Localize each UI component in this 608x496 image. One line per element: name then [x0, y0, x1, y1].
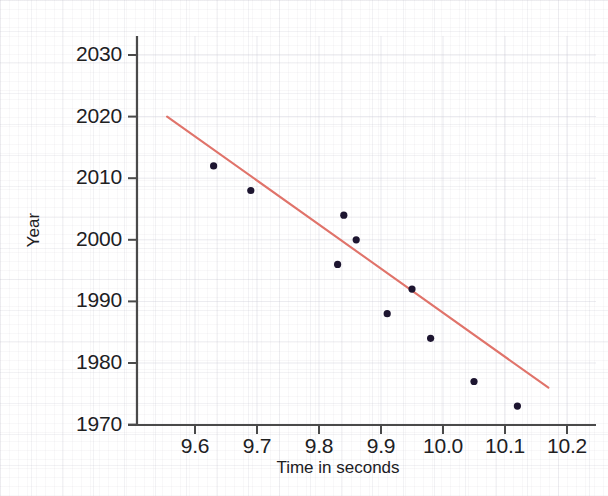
data-point [353, 236, 360, 243]
y-axis-tick-label: 2000 [48, 227, 122, 251]
grid-lines [137, 36, 596, 425]
data-point [210, 162, 217, 169]
y-axis-tick-label: 1980 [48, 350, 122, 374]
x-axis-tick-label: 10.2 [527, 434, 607, 458]
data-point [334, 261, 341, 268]
y-axis-tick-label: 2010 [48, 165, 122, 189]
x-axis-ticks [195, 425, 567, 434]
y-axis-ticks [128, 55, 137, 425]
y-axis-title: Year [24, 200, 44, 260]
y-axis-tick-label: 2030 [48, 42, 122, 66]
scatter-chart: 2030202020102000199019801970 9.69.79.89.… [0, 0, 608, 496]
trend-line [167, 117, 548, 388]
data-point [514, 403, 521, 410]
x-axis-title: Time in seconds [248, 458, 428, 478]
data-point [247, 187, 254, 194]
y-axis-tick-label: 2020 [48, 104, 122, 128]
y-axis-tick-label: 1990 [48, 288, 122, 312]
data-point [427, 335, 434, 342]
data-point [340, 212, 347, 219]
y-axis-tick-label: 1970 [48, 412, 122, 436]
data-point [384, 310, 391, 317]
data-point [470, 378, 477, 385]
data-point [408, 285, 415, 292]
